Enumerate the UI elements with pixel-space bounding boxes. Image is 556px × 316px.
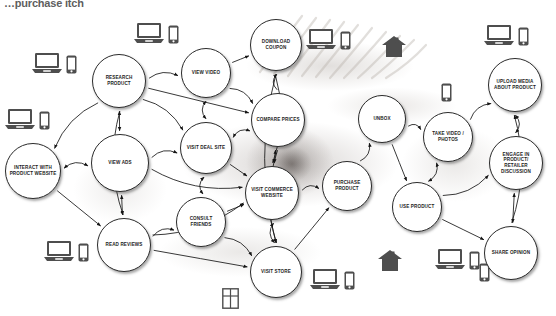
- laptop-phone-top-center: [134, 22, 179, 44]
- node-consult-friends[interactable]: CONSULT FRIENDS: [176, 197, 226, 247]
- edge-research-product-to-view-video: [149, 72, 178, 78]
- node-label: VISIT COMMERCE WEBSITE: [246, 187, 298, 198]
- node-download-coupon[interactable]: DOWNLOAD COUPON: [250, 19, 302, 71]
- node-label: USE PRODUCT: [397, 204, 438, 210]
- node-compare-prices[interactable]: COMPARE PRICES: [251, 93, 305, 147]
- node-label: VIEW ADS: [105, 160, 135, 166]
- phone-icon: [344, 271, 355, 290]
- node-label: INTERACT WITH PRODUCT WEBSITE: [6, 165, 60, 176]
- edge-research-product-to-interact-with-product-website: [55, 103, 99, 149]
- node-visit-store[interactable]: VISIT STORE: [250, 246, 302, 298]
- edge-research-product-to-visit-deal-site: [143, 99, 183, 130]
- node-label: DOWNLOAD COUPON: [251, 39, 301, 50]
- node-interact-with-product-website[interactable]: INTERACT WITH PRODUCT WEBSITE: [5, 143, 61, 199]
- node-label: UNBOX: [370, 116, 393, 122]
- node-upload-media-about-product[interactable]: UPLOAD MEDIA ABOUT PRODUCT: [488, 58, 542, 112]
- phone-icon: [441, 83, 452, 102]
- house-icon: [378, 250, 402, 271]
- edge-visit-store-to-purchase-product: [295, 208, 329, 250]
- edge-unbox-to-use-product: [392, 144, 407, 181]
- node-view-ads[interactable]: VIEW ADS: [91, 134, 149, 192]
- edge-visit-deal-site-to-consult-friends: [200, 177, 204, 194]
- laptop-icon: [5, 108, 35, 130]
- edge-visit-commerce-website-to-purchase-product: [302, 186, 319, 191]
- node-label: COMPARE PRICES: [253, 117, 302, 123]
- laptop-phone-bottom-left: [44, 240, 89, 262]
- phone-icon: [39, 111, 50, 130]
- node-engage-in-product-retailer-discussion[interactable]: ENGAGE IN PRODUCT/ RETAILER DISCUSSION: [489, 136, 543, 190]
- laptop-phone-top-left-a: [32, 52, 77, 74]
- edge-consult-friends-to-visit-commerce-website: [227, 204, 244, 211]
- node-label: VISIT DEAL SITE: [184, 145, 228, 151]
- edge-unbox-to-take-video-photos: [408, 124, 421, 129]
- node-visit-commerce-website[interactable]: VISIT COMMERCE WEBSITE: [245, 166, 299, 220]
- node-label: READ REVIEWS: [103, 242, 146, 248]
- edge-upload-media-about-product-to-engage-in-product-retailer-discussion: [515, 115, 519, 133]
- house-icon: [382, 36, 406, 57]
- laptop-phone-mid-left: [5, 108, 50, 130]
- edge-interact-with-product-website-to-view-ads: [64, 163, 88, 169]
- laptop-icon: [44, 240, 74, 262]
- node-label: TAKE VIDEO / PHOTOS: [424, 131, 472, 142]
- laptop-icon: [484, 24, 514, 46]
- node-label: RESEARCH PRODUCT: [93, 75, 145, 86]
- node-purchase-product[interactable]: PURCHASE PRODUCT: [322, 161, 372, 211]
- laptop-icon: [32, 52, 62, 74]
- edge-view-ads-to-visit-deal-site: [152, 151, 178, 158]
- node-visit-deal-site[interactable]: VISIT DEAL SITE: [180, 122, 232, 174]
- node-read-reviews[interactable]: READ REVIEWS: [97, 218, 151, 272]
- laptop-phone-top-right-b: [484, 24, 529, 46]
- laptop-icon: [306, 28, 336, 50]
- phone-icon: [340, 31, 351, 50]
- node-view-video[interactable]: VIEW VIDEO: [181, 48, 231, 98]
- laptop-phone-top-right-a: [306, 28, 351, 50]
- laptop-icon: [134, 22, 164, 44]
- edge-purchase-product-to-unbox: [360, 143, 370, 161]
- edge-view-video-to-visit-deal-site: [202, 101, 206, 119]
- node-label: SHARE OPINION: [489, 250, 533, 256]
- node-label: VIEW VIDEO: [189, 70, 224, 76]
- edge-interact-with-product-website-to-read-reviews: [57, 191, 100, 226]
- node-label: VISIT STORE: [258, 269, 294, 275]
- phone-icon: [66, 55, 77, 74]
- node-share-opinion[interactable]: SHARE OPINION: [484, 226, 538, 280]
- diagram-canvas: …purchase itch RESEARCH PRODUCTVIEW VIDE…: [0, 0, 556, 316]
- laptop-phone-bottom-mid: [310, 268, 355, 290]
- edge-visit-deal-site-to-compare-prices: [233, 130, 250, 138]
- edge-use-product-to-take-video-photos: [428, 163, 437, 181]
- node-take-video-photos[interactable]: TAKE VIDEO / PHOTOS: [423, 112, 473, 162]
- edge-consult-friends-to-visit-store: [225, 238, 252, 256]
- edge-view-video-to-compare-prices: [230, 88, 253, 103]
- edge-view-video-to-download-coupon: [232, 56, 249, 63]
- node-label: UPLOAD MEDIA ABOUT PRODUCT: [489, 79, 541, 90]
- node-label: CONSULT FRIENDS: [177, 216, 225, 227]
- node-use-product[interactable]: USE PRODUCT: [392, 182, 442, 232]
- window-icon: [222, 288, 239, 309]
- phone-icon: [518, 27, 529, 46]
- node-unbox[interactable]: UNBOX: [358, 95, 406, 143]
- phone-icon: [78, 243, 89, 262]
- phone-icon: [168, 25, 179, 44]
- laptop-phone-bottom-right: [435, 248, 480, 270]
- node-research-product[interactable]: RESEARCH PRODUCT: [92, 54, 146, 108]
- node-label: PURCHASE PRODUCT: [323, 180, 371, 191]
- node-label: ENGAGE IN PRODUCT/ RETAILER DISCUSSION: [490, 152, 542, 174]
- laptop-icon: [435, 248, 465, 270]
- edge-use-product-to-engage-in-product-retailer-discussion: [443, 175, 489, 195]
- edge-use-product-to-share-opinion: [442, 219, 484, 239]
- edge-take-video-photos-to-upload-media-about-product: [470, 104, 491, 120]
- edge-read-reviews-to-visit-store: [154, 250, 248, 267]
- laptop-icon: [310, 268, 340, 290]
- edge-visit-deal-site-to-visit-commerce-website: [230, 164, 247, 176]
